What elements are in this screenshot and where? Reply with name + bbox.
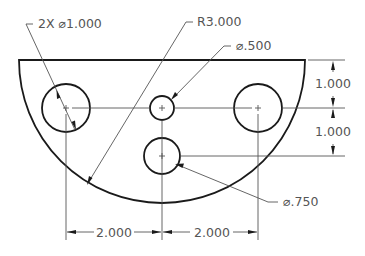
callout-outer-radius: R3.000 — [197, 14, 242, 29]
vertical-dimension-bottom: 1.000 — [315, 109, 351, 155]
dim-vertical-bottom: 1.000 — [315, 124, 351, 139]
callout-small-hole: ⌀.500 — [236, 38, 271, 53]
horizontal-dimension-right: 2.000 — [163, 225, 257, 240]
dim-horizontal-left: 2.000 — [96, 225, 132, 240]
vertical-dimension-top: 1.000 — [315, 61, 351, 107]
leader-large-holes: 2X ⌀1.000 — [26, 16, 102, 130]
leader-medium-hole: ⌀.750 — [175, 164, 318, 210]
dim-vertical-top: 1.000 — [315, 76, 351, 91]
dim-horizontal-right: 2.000 — [194, 225, 230, 240]
callout-large-holes: 2X ⌀1.000 — [38, 16, 102, 31]
leader-outer-radius: R3.000 — [87, 14, 242, 185]
leader-small-hole: ⌀.500 — [171, 38, 271, 100]
technical-drawing: 1.000 1.000 2.000 2.000 2X ⌀1.000 R3.000 — [0, 0, 365, 256]
callout-medium-hole: ⌀.750 — [283, 194, 318, 209]
horizontal-dimension-left: 2.000 — [67, 225, 161, 240]
